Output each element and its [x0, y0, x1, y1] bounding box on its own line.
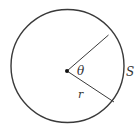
- lower-radius-line: [67, 71, 114, 102]
- upper-radius-line: [67, 35, 109, 71]
- circle-outline: [11, 10, 124, 123]
- center-point: [65, 69, 69, 73]
- radius-label-r: r: [78, 88, 84, 101]
- angle-label-theta: θ: [77, 64, 85, 78]
- arc-label-s: S: [126, 65, 134, 79]
- circle-diagram: θ r S: [0, 0, 139, 135]
